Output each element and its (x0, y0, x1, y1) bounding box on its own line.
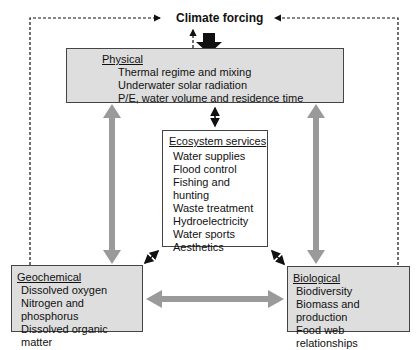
physical-heading: Physical (102, 53, 343, 66)
geochemical-item: Nitrogen and phosphorus (17, 297, 142, 323)
geochemical-box: Geochemical Dissolved oxygen Nitrogen an… (11, 265, 143, 332)
physical-box: Physical Thermal regime and mixing Under… (66, 48, 344, 103)
service-item: Hydroelectricity (169, 215, 267, 228)
biological-item: Biodiversity (293, 285, 409, 298)
geochemical-item: Dissolved oxygen (17, 284, 142, 297)
geochemical-heading: Geochemical (17, 271, 142, 284)
physical-item: P/E, water volume and residence time (102, 92, 343, 105)
service-item: Flood control (169, 163, 267, 176)
service-item: Water supplies (169, 150, 267, 163)
climate-forcing-label: Climate forcing (176, 11, 263, 25)
biological-heading: Biological (293, 272, 409, 285)
services-heading: Ecosystem services (169, 135, 267, 148)
service-item: Aesthetics (169, 241, 267, 254)
ecosystem-services-box: Ecosystem services Water supplies Flood … (162, 130, 268, 247)
geochemical-item: Dissolved organic matter (17, 323, 142, 349)
biological-item: Biomass and production (293, 298, 409, 324)
service-item: Water sports (169, 228, 267, 241)
physical-item: Thermal regime and mixing (102, 66, 343, 79)
physical-item: Underwater solar radiation (102, 79, 343, 92)
service-item: Waste treatment (169, 202, 267, 215)
service-item: Fishing and hunting (169, 176, 267, 202)
biological-box: Biological Biodiversity Biomass and prod… (287, 266, 410, 332)
biological-item: Food web relationships (293, 324, 409, 350)
